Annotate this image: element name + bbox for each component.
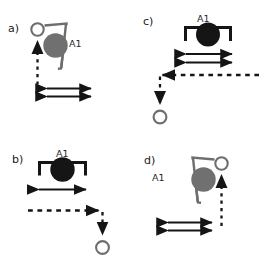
panel-a-target-circle bbox=[31, 23, 43, 35]
panel-a-measure-arrows bbox=[47, 89, 91, 97]
panel-c-target-circle bbox=[154, 111, 167, 124]
panel-c-measure-arrows bbox=[186, 54, 232, 63]
panel-a: a) A1 bbox=[0, 0, 129, 134]
panel-a-graphic bbox=[0, 0, 129, 134]
panel-b: b) A1 bbox=[0, 134, 129, 268]
panel-d-graphic bbox=[130, 134, 259, 268]
panel-d-target-circle bbox=[215, 157, 227, 169]
panel-c-graphic bbox=[130, 0, 259, 134]
panel-d-measure-arrows bbox=[168, 223, 212, 231]
panel-c-grasped-object bbox=[196, 23, 220, 47]
panel-d-grasped-object bbox=[191, 167, 215, 191]
panel-c: c) A1 bbox=[130, 0, 259, 134]
panel-b-target-circle bbox=[96, 241, 109, 254]
panel-b-grasped-object bbox=[50, 157, 74, 181]
panel-c-path-arrow bbox=[160, 75, 259, 104]
panel-d: d) A1 bbox=[130, 134, 259, 268]
figure-four-panel-gripper-diagram: a) A1 bbox=[0, 0, 259, 268]
panel-a-grasped-object bbox=[43, 33, 67, 57]
panel-b-path-arrow bbox=[28, 211, 103, 235]
panel-b-graphic bbox=[0, 134, 129, 268]
